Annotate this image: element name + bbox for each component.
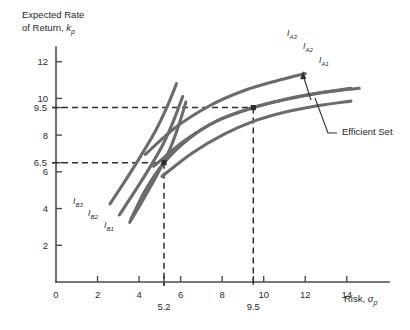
x-tick-label-10: 10	[258, 289, 269, 300]
efficient-set-annotation: Efficient Set	[300, 71, 393, 137]
risk-return-chart: 246810126.59.5 024681012145.29.5 IB1IB2I…	[0, 0, 410, 330]
axes-group	[56, 47, 389, 282]
curve-label-ia2: IA2	[303, 41, 313, 53]
y-axis-title-line2: of Return, kp	[22, 22, 75, 36]
efficient-set-label: Efficient Set	[342, 126, 393, 137]
y-special-tick-label-6.5: 6.5	[34, 157, 47, 168]
curve-label-subscript: A1	[320, 61, 328, 67]
chart-container: 246810126.59.5 024681012145.29.5 IB1IB2I…	[0, 0, 410, 330]
curve-label-subscript: A2	[304, 47, 313, 53]
curve-label-subscript: A3	[288, 34, 297, 40]
curve-ib2	[119, 97, 182, 215]
curve-label-subscript: B1	[106, 226, 113, 232]
curve-label-subscript: B2	[90, 214, 98, 220]
x-tick-label-6: 6	[178, 289, 183, 300]
curve-label-ia1: IA1	[319, 55, 329, 67]
y-axis-title-line1: Expected Rate	[22, 9, 84, 20]
x-tick-label-4: 4	[136, 289, 141, 300]
y-tick-label-2: 2	[43, 240, 48, 251]
x-tick-label-2: 2	[95, 289, 100, 300]
curve-label-ia3: IA3	[287, 28, 297, 40]
x-axis-title: Risk, σp	[344, 293, 377, 307]
y-tick-label-12: 12	[37, 56, 48, 67]
x-special-tick-label-9.5: 9.5	[247, 301, 260, 312]
y-tick-label-4: 4	[43, 203, 48, 214]
x-tick-label-0: 0	[53, 289, 58, 300]
x-tick-label-8: 8	[220, 289, 225, 300]
y-axis-title-text: of Return,	[22, 22, 66, 33]
curve-label-ib1: IB1	[104, 220, 114, 232]
curve-label-ib2: IB2	[88, 208, 98, 220]
tangency-dot-investor-a-optimal	[251, 105, 256, 110]
y-special-tick-label-9.5: 9.5	[34, 102, 47, 113]
y-axis-ticks: 246810126.59.5	[34, 56, 62, 251]
x-tick-label-12: 12	[300, 289, 311, 300]
tangency-dot-investor-b-optimal	[161, 160, 166, 165]
curve-label-subscript: B3	[75, 202, 83, 208]
y-tick-label-8: 8	[43, 130, 48, 141]
curve-label-ib3: IB3	[73, 196, 83, 208]
x-special-tick-label-5.2: 5.2	[157, 301, 170, 312]
curve-ib3	[110, 84, 176, 204]
curves-group	[110, 74, 359, 223]
axis-titles-group: Expected Rate of Return, kp Risk, σp	[22, 9, 377, 307]
curve-ia2	[154, 88, 351, 166]
